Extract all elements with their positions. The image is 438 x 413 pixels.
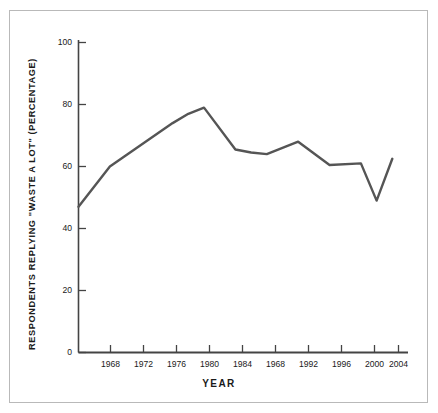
ytick-label-0: 0 (50, 347, 72, 357)
data-series-line (79, 108, 393, 207)
y-axis-title: RESPONDENTS REPLYING "WASTE A LOT" (PERC… (27, 58, 37, 350)
chart-figure: 100 80 60 40 20 0 1968 1972 1976 1980 19… (0, 0, 438, 413)
ytick-label-20: 20 (50, 285, 72, 295)
ytick-label-60: 60 (50, 161, 72, 171)
ytick-label-100: 100 (50, 37, 72, 47)
ytick-label-80: 80 (50, 99, 72, 109)
x-axis-ticks (111, 345, 399, 353)
xtick-label-10: 2004 (379, 359, 418, 369)
ytick-label-40: 40 (50, 223, 72, 233)
x-axis-title: YEAR (0, 378, 438, 389)
